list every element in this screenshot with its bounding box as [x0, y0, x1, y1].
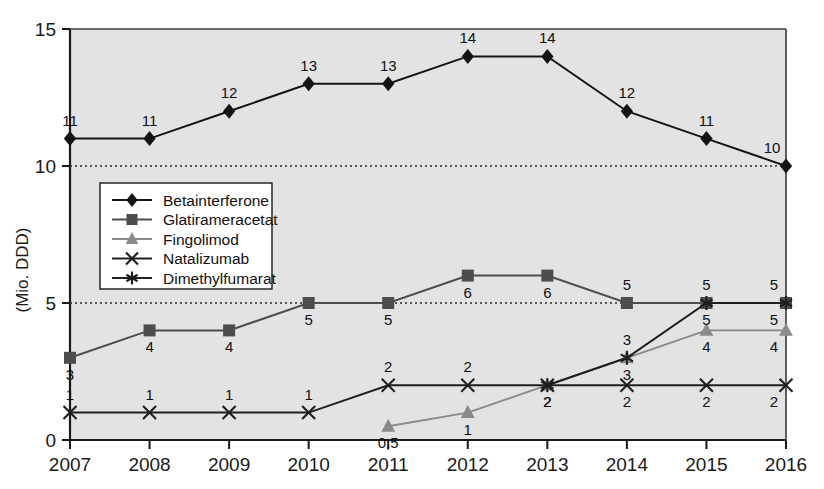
data-label-betainterferone-2016: 10	[764, 139, 781, 156]
data-label-betainterferone-2011: 13	[380, 57, 397, 74]
data-label-natalizumab-2013: 2	[543, 393, 551, 410]
legend-label-betainterferone: Betainterferone	[163, 192, 269, 209]
data-label-natalizumab-2015: 2	[702, 393, 710, 410]
data-label-glatirameracetat-2013: 6	[543, 284, 551, 301]
data-label-glatirameracetat-2008: 4	[145, 338, 153, 355]
x-tick-label-2009: 2009	[208, 454, 250, 475]
data-label-betainterferone-2007: 11	[62, 112, 78, 129]
legend-label-fingolimod: Fingolimod	[163, 231, 239, 248]
data-label-natalizumab-2009: 1	[225, 386, 233, 403]
data-label-fingolimod-2011: 0,5	[378, 434, 399, 451]
data-label-glatirameracetat-2012: 6	[464, 284, 472, 301]
legend-label-glatirameracetat: Glatirameracetat	[163, 211, 278, 228]
y-axis-title: (Mio. DDD)	[13, 228, 32, 313]
data-label-betainterferone-2012: 14	[459, 29, 476, 46]
data-label-natalizumab-2011: 2	[384, 358, 392, 375]
data-label-betainterferone-2013: 14	[539, 29, 556, 46]
data-label-natalizumab-2014: 2	[623, 393, 631, 410]
data-label-fingolimod-2014: 3	[623, 366, 631, 383]
data-label-betainterferone-2010: 13	[300, 57, 317, 74]
data-point-glatirameracetat-2008	[144, 324, 156, 336]
legend-marker-square-icon	[126, 214, 137, 225]
y-tick-label-0: 0	[45, 430, 56, 451]
data-label-betainterferone-2014: 12	[619, 84, 636, 101]
data-point-glatirameracetat-2011	[382, 297, 394, 309]
legend-label-dimethylfumarat: Dimethylfumarat	[163, 270, 277, 287]
data-point-glatirameracetat-2014	[621, 297, 633, 309]
data-label-glatirameracetat-2010: 5	[304, 311, 312, 328]
data-label-glatirameracetat-2015: 5	[702, 311, 710, 328]
data-label-glatirameracetat-2011: 5	[384, 311, 392, 328]
y-tick-label-5: 5	[45, 293, 56, 314]
data-label-fingolimod-2016: 4	[770, 338, 778, 355]
data-label-natalizumab-2012: 2	[464, 358, 472, 375]
data-label-natalizumab-2007: 1	[66, 386, 74, 403]
data-point-glatirameracetat-2012	[462, 270, 474, 282]
data-point-glatirameracetat-2009	[223, 324, 235, 336]
y-tick-label-15: 15	[35, 19, 56, 40]
data-label-natalizumab-2010: 1	[304, 386, 312, 403]
data-point-glatirameracetat-2007	[64, 352, 76, 364]
data-label-natalizumab-2008: 1	[145, 386, 153, 403]
chart-legend: BetainterferoneGlatirameracetatFingolimo…	[100, 183, 278, 289]
x-tick-label-2012: 2012	[447, 454, 489, 475]
line-chart: 151050 200720082009201020112012201320142…	[0, 0, 824, 489]
data-label-fingolimod-2012: 1	[464, 421, 472, 438]
data-label-glatirameracetat-2009: 4	[225, 338, 233, 355]
x-tick-label-2013: 2013	[526, 454, 568, 475]
legend-label-natalizumab: Natalizumab	[163, 250, 249, 267]
data-label-betainterferone-2015: 11	[699, 112, 715, 129]
data-label-natalizumab-2016: 2	[770, 393, 778, 410]
x-tick-label-2007: 2007	[49, 454, 91, 475]
data-label-fingolimod-2015: 4	[702, 338, 710, 355]
data-label-glatirameracetat-2007: 3	[66, 366, 74, 383]
data-label-betainterferone-2009: 12	[221, 84, 238, 101]
x-tick-label-2015: 2015	[685, 454, 727, 475]
x-tick-label-2011: 2011	[368, 454, 409, 475]
data-point-glatirameracetat-2013	[541, 270, 553, 282]
data-label-dimethylfumarat-2016: 5	[770, 276, 778, 293]
x-tick-label-2016: 2016	[765, 454, 807, 475]
data-label-dimethylfumarat-2014: 3	[623, 331, 631, 348]
data-label-glatirameracetat-2016: 5	[770, 311, 778, 328]
data-label-dimethylfumarat-2015: 5	[702, 276, 710, 293]
data-label-betainterferone-2008: 11	[142, 112, 158, 129]
x-tick-label-2010: 2010	[288, 454, 330, 475]
y-axis-ticks: 151050	[35, 19, 70, 451]
y-tick-label-10: 10	[35, 156, 56, 177]
x-tick-label-2014: 2014	[606, 454, 649, 475]
x-tick-label-2008: 2008	[128, 454, 170, 475]
x-axis-ticks: 2007200820092010201120122013201420152016	[49, 440, 807, 475]
data-label-glatirameracetat-2014: 5	[623, 276, 631, 293]
data-point-glatirameracetat-2010	[303, 297, 315, 309]
chart-container: 151050 200720082009201020112012201320142…	[0, 0, 824, 489]
